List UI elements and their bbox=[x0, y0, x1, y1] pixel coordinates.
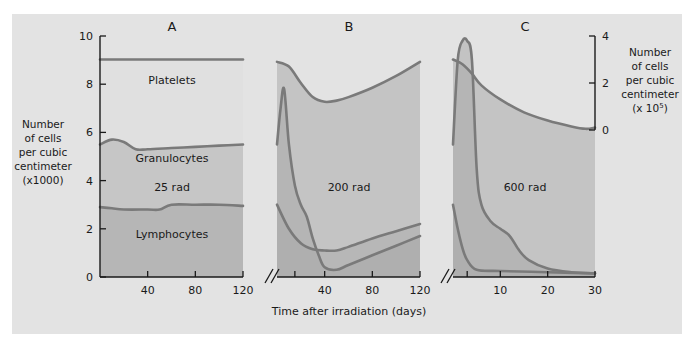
x-tick-label: 120 bbox=[233, 284, 254, 297]
right-y-tick-label: 2 bbox=[602, 77, 609, 90]
panel-a-dose-label: 25 rad bbox=[154, 181, 190, 194]
panel-b: 4080120 bbox=[265, 62, 431, 297]
x-axis-title: Time after irradiation (days) bbox=[271, 305, 426, 318]
svg-text:Number: Number bbox=[629, 46, 672, 58]
radiation-blood-count-chart: 4080120 4080120 102030 0246810 024 A B C… bbox=[0, 0, 693, 346]
x-tick-label: 80 bbox=[188, 284, 202, 297]
y-tick-label: 10 bbox=[79, 30, 93, 43]
x-tick-label: 20 bbox=[541, 284, 555, 297]
svg-text:per cubic: per cubic bbox=[626, 74, 675, 86]
x-tick-label: 40 bbox=[318, 284, 332, 297]
panel-c-title: C bbox=[520, 19, 529, 34]
x-tick-label: 80 bbox=[365, 284, 379, 297]
y-tick-label: 4 bbox=[86, 175, 93, 188]
svg-text:per cubic: per cubic bbox=[19, 146, 68, 158]
platelets-label: Platelets bbox=[148, 74, 196, 87]
x-tick-label: 120 bbox=[410, 284, 431, 297]
svg-text:of cells: of cells bbox=[632, 60, 669, 72]
y-tick-label: 6 bbox=[86, 126, 93, 139]
panel-b-dose-label: 200 rad bbox=[328, 181, 371, 194]
x-tick-label: 10 bbox=[493, 284, 507, 297]
x-tick-label: 40 bbox=[141, 284, 155, 297]
svg-text:centimeter: centimeter bbox=[14, 160, 72, 172]
right-y-tick-label: 4 bbox=[602, 30, 609, 43]
panel-a: 4080120 bbox=[100, 60, 254, 298]
svg-text:Number: Number bbox=[22, 118, 65, 130]
granulocytes-label: Granulocytes bbox=[136, 152, 209, 165]
y-tick-label: 8 bbox=[86, 78, 93, 91]
lymphocytes-label: Lymphocytes bbox=[136, 228, 209, 241]
svg-text:of cells: of cells bbox=[25, 132, 62, 144]
y-tick-label: 2 bbox=[86, 223, 93, 236]
svg-text:centimeter: centimeter bbox=[621, 88, 679, 100]
panel-b-title: B bbox=[345, 19, 354, 34]
y-tick-label: 0 bbox=[86, 271, 93, 284]
svg-text:(x1000): (x1000) bbox=[22, 174, 63, 186]
panel-a-title: A bbox=[168, 19, 177, 34]
panel-c-dose-label: 600 rad bbox=[504, 181, 547, 194]
x-tick-label: 30 bbox=[588, 284, 602, 297]
right-y-tick-label: 0 bbox=[602, 124, 609, 137]
